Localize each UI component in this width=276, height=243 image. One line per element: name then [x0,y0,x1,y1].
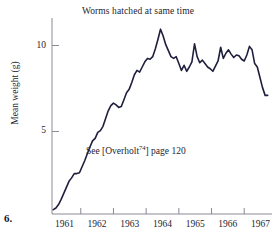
x-tick-label: 1961 [48,219,80,229]
plot-area [0,0,276,243]
data-series-line [53,29,267,210]
figure-number: 6. [4,212,12,224]
x-tick-marks [81,208,244,214]
x-tick-label: 1966 [212,219,244,229]
x-tick-label: 1963 [114,219,146,229]
x-tick-label: 1964 [146,219,178,229]
annotation-suffix: ] page 120 [146,146,186,156]
annotation-prefix: See [Overholt [86,146,139,156]
y-tick-marks [52,46,59,132]
axes-group [52,18,272,214]
x-tick-label: 1965 [179,219,211,229]
chart-annotation: See [Overholt74] page 120 [86,146,186,156]
figure-container: Worms hatched at same time Mean weight (… [0,0,276,243]
y-tick-label: 5 [16,125,46,135]
x-tick-label: 1967 [245,219,276,229]
x-tick-label: 1962 [81,219,113,229]
y-tick-label: 10 [16,40,46,50]
